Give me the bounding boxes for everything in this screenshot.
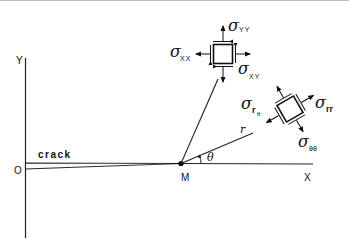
x-axis-label: X — [304, 172, 311, 183]
crack-tip-label: M — [181, 172, 189, 183]
sigma-rr-subscript: rr — [326, 104, 334, 114]
element-square — [214, 45, 233, 64]
sigma-thetatheta-subscript: θθ — [309, 145, 317, 152]
diagram-frame: Y crack O X M r θ — [0, 0, 349, 251]
polar-stress-element: σ rr σ θθ σ r θ — [241, 73, 334, 152]
crack-label: crack — [38, 149, 72, 160]
x-axis: X — [181, 164, 313, 184]
sigma-xy-subscript: XY — [249, 73, 260, 80]
cartesian-stress-element: σ YY σ XX σ XY — [170, 16, 260, 82]
sigma-xx-subscript: XX — [180, 55, 191, 62]
radial-line: r — [181, 123, 253, 164]
y-axis-label: Y — [16, 55, 23, 66]
origin-label: O — [14, 165, 22, 176]
theta-label: θ — [207, 151, 214, 164]
y-axis: Y — [16, 55, 26, 238]
radius-label: r — [240, 123, 246, 136]
crack-stress-diagram: Y crack O X M r θ — [0, 1, 349, 251]
sigma-rtheta-subscript-theta: θ — [257, 111, 261, 117]
sigma-rtheta-subscript-r: r — [252, 105, 256, 115]
crack: crack O — [14, 149, 181, 176]
sigma-yy-subscript: YY — [239, 26, 250, 33]
crack-tip: M — [178, 161, 189, 183]
